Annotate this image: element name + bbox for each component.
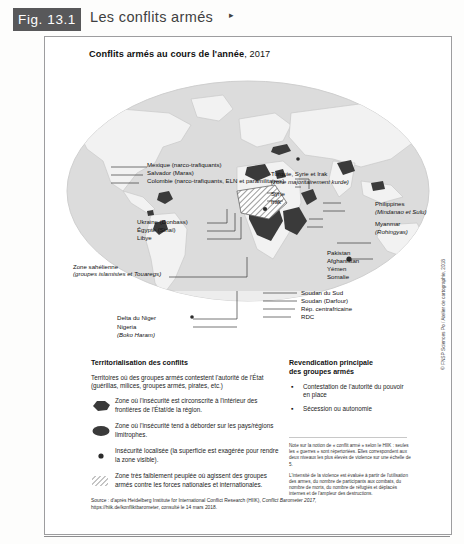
square-bullet-icon: ▪ [289,383,303,391]
blob-spread-symbol-icon [91,422,115,441]
blob-symbol-icon [91,397,115,416]
dot-symbol-icon [91,447,115,466]
square-bullet-icon: ▪ [289,405,303,413]
note-paragraph-1: Note sur la notion de « conflit armé » s… [289,443,413,468]
map-label-soudan-du-sud: Soudan du Sud [301,289,343,296]
chart-title-main: Conflits armés au cours de l'année [89,49,244,59]
map-label-zone-sahelienne-sub: (groupes islamistes et Touaregs) [73,270,169,277]
page-title: Les conflits armés [90,9,213,25]
map-label-ukraine: Ukraine (Donbass) [137,218,188,225]
map-label-philippines: Philippines [375,200,404,207]
legend-bullet-text: Contestation de l'autorité du pouvoir en… [303,383,409,400]
map-label-libye: Libye [137,234,152,241]
legend-bullet-item: ▪ Contestation de l'autorité du pouvoir … [289,383,409,400]
chart-title-year: , 2017 [244,49,270,59]
map-label-soudan-darfour: Soudan (Darfour) [301,297,348,304]
note-divider [289,437,407,438]
title-marker-icon: ▸ [229,10,234,20]
map-label-afghanistan: Afghanistan [327,257,359,264]
map-label-egypte: Égypte (Sinaï) [137,226,176,233]
map-label-colombie: Colombie (narco-trafiquants, ELN et para… [147,177,284,184]
legend-column-right: Revendication principale des groupes arm… [289,359,409,418]
map-label-turquie-syrie-irak: Turquie, Syrie et Irak [271,170,327,177]
legend-item: Zone où l'insécurité est circonscrite à … [91,397,279,416]
legend-item: Zone très faiblement peuplée où agissent… [91,472,279,491]
legend-item-text: Zone où l'insécurité est circonscrite à … [115,397,279,413]
map-label-myanmar: Myanmar [375,220,400,227]
map-label-somalie: Somalie [327,273,349,280]
map-credit: © FNSP Sciences Po / Atelier de cartogra… [441,259,446,370]
map-label-mexique: Mexique (narco-trafiquants) [147,161,222,168]
hatch-symbol-icon [91,472,115,491]
legend-left-heading: Territorialisation des conflits [91,359,279,368]
legend: Territorialisation des conflits Territoi… [51,359,445,509]
figure-page: Fig. 13.1 Les conflits armés ▸ Conflits … [0,0,464,544]
source-line1-post: , [315,498,316,503]
map-label-syrie: Syrie [271,190,285,197]
map-label-rep-centrafricaine: Rép. centrafricaine [301,305,352,312]
figure-body: Conflits armés au cours de l'année, 2017 [44,36,452,535]
legend-item-text: Zone où l'insécurité tend à déborder sur… [115,422,279,438]
source-line2: https://hiik.de/konfliktbarometer, consu… [91,505,217,510]
source-note: Source : d'après Heidelberg Institute fo… [91,498,431,511]
map-label-philippines-sub: (Mindanao et Sulu) [375,208,427,215]
legend-item-text: Insécurité localisée (la superficie est … [115,447,279,463]
legend-column-left: Territorialisation des conflits Territoi… [91,359,279,497]
legend-left-intro: Territoires où des groupes armés contest… [91,374,279,390]
source-line1-italic: Conflict Barometer 2017 [262,498,315,503]
bottom-divider [44,536,450,537]
legend-bullet-text: Sécession ou autonomie [303,405,372,413]
map-label-nigeria: Nigeria [117,323,136,330]
legend-right-heading-line2: des groupes armés [289,368,409,377]
map-label-rdc: RDC [301,313,314,320]
world-map: Mexique (narco-trafiquants) Salvador (Ma… [51,63,445,353]
map-label-pakistan: Pakistan [327,249,350,256]
map-label-turquie-sub: (zone majoritairement kurde) [271,178,349,185]
map-label-irak: Irak [271,198,281,205]
legend-item-text: Zone très faiblement peuplée où agissent… [115,472,279,488]
map-label-yemen: Yémen [327,265,346,272]
figure-number-tag: Fig. 13.1 [13,8,81,31]
legend-right-heading: Revendication principale des groupes arm… [289,359,409,377]
legend-item: Insécurité localisée (la superficie est … [91,447,279,466]
map-label-salvador: Salvador (Maras) [147,169,194,176]
map-label-nigeria-sub: (Boko Haram) [117,331,155,338]
source-line1-pre: Source : d'après Heidelberg Institute fo… [91,498,262,503]
legend-item: Zone où l'insécurité tend à déborder sur… [91,422,279,441]
legend-right-heading-line1: Revendication principale [289,359,409,368]
map-label-myanmar-sub: (Rohingyas) [375,228,408,235]
chart-title: Conflits armés au cours de l'année, 2017 [89,49,270,59]
note-paragraph-2: L'intensité de la violence est évaluée à… [289,473,413,498]
note-block: Note sur la notion de « conflit armé » s… [289,443,413,503]
map-label-delta-niger: Delta du Niger [117,314,156,321]
legend-bullet-item: ▪ Sécession ou autonomie [289,405,409,413]
figure-header: Fig. 13.1 Les conflits armés ▸ [13,8,451,35]
